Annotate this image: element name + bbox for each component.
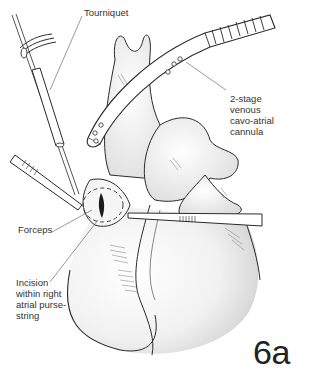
left-forceps	[10, 155, 82, 210]
label-forceps: Forceps	[18, 224, 52, 235]
label-tourniquet: Tourniquet	[84, 7, 128, 18]
figure-number: 6a	[253, 333, 290, 372]
label-incision: Incision within right atrial purse- stri…	[16, 277, 66, 321]
heart-body	[67, 205, 260, 355]
label-cannula: 2-stage venous cavo-atrial cannula	[230, 93, 274, 137]
surgical-illustration-figure: Tourniquet 2-stage venous cavo-atrial ca…	[0, 0, 310, 377]
